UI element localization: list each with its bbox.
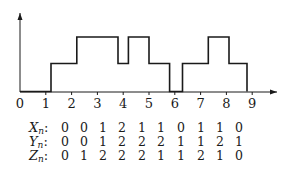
table-cell: 1	[99, 120, 107, 135]
table-cell: 1	[138, 120, 146, 135]
x-tick-label: 5	[145, 96, 153, 111]
table-cell: 2	[99, 148, 107, 163]
table-cell: 2	[118, 134, 126, 149]
x-tick-labels: 0123456789	[16, 96, 256, 111]
table-cell: 2	[118, 120, 126, 135]
table-cell: 0	[61, 134, 69, 149]
x-tick-label: 1	[42, 96, 50, 111]
table-cell: 2	[197, 148, 205, 163]
table-cell: 0	[235, 148, 243, 163]
table-cell: 0	[80, 134, 88, 149]
table-cell: 2	[118, 148, 126, 163]
x-tick-label: 9	[248, 96, 256, 111]
table-cell: 2	[138, 134, 146, 149]
table-cell: 1	[235, 134, 243, 149]
x-tick-label: 4	[119, 96, 127, 111]
x-tick-label: 6	[171, 96, 179, 111]
value-table: Xn:0012110110Yn:0012221121Zn:0122211210	[28, 120, 243, 164]
table-cell: 1	[157, 148, 165, 163]
row-label: Zn:	[28, 148, 48, 164]
table-cell: 1	[197, 134, 205, 149]
table-cell: 1	[177, 148, 185, 163]
table-cell: 2	[216, 134, 224, 149]
x-tick-label: 0	[16, 96, 24, 111]
x-tick-label: 7	[196, 96, 204, 111]
table-cell: 1	[99, 134, 107, 149]
x-tick-label: 8	[222, 96, 230, 111]
table-cell: 1	[157, 120, 165, 135]
table-cell: 1	[216, 120, 224, 135]
table-cell: 1	[216, 148, 224, 163]
table-cell: 0	[61, 148, 69, 163]
table-cell: 0	[61, 120, 69, 135]
table-cell: 2	[157, 134, 165, 149]
step-function-line	[20, 37, 247, 92]
table-cell: 0	[177, 120, 185, 135]
x-tick-label: 3	[93, 96, 101, 111]
step-function-diagram: 0123456789 Xn:0012110110Yn:0012221121Zn:…	[0, 0, 291, 172]
table-cell: 1	[197, 120, 205, 135]
table-cell: 2	[138, 148, 146, 163]
table-cell: 0	[235, 120, 243, 135]
table-row: Zn:0122211210	[28, 148, 243, 164]
table-cell: 1	[80, 148, 88, 163]
table-cell: 1	[177, 134, 185, 149]
x-tick-label: 2	[67, 96, 75, 111]
table-cell: 0	[80, 120, 88, 135]
